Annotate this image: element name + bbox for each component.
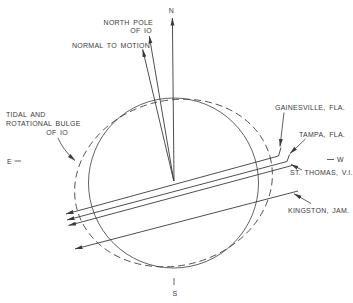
bulge-label-line2: ROTATIONAL BULGE	[6, 120, 81, 127]
io-occultation-diagram: N S E W NORTH POLE OF IO NORMAL TO MOTIO…	[0, 0, 353, 303]
station-label-tampa: TAMPA, FLA.	[299, 131, 345, 138]
station-label-kingston: KINGSTON, JAM.	[288, 207, 349, 214]
bulge-label-line1: TIDAL AND	[6, 111, 46, 118]
normal-to-motion-line	[143, 50, 174, 182]
compass-east-label: E	[7, 158, 12, 165]
compass-west-label: W	[337, 156, 344, 163]
bulge-leader-arrow	[58, 138, 75, 161]
bulge-label-line3: OF IO	[46, 129, 68, 136]
occultation-path-st-thomas	[69, 166, 293, 226]
station-label-gainesville: GAINESVILLE, FLA.	[275, 104, 345, 111]
kingston-leader-arrow	[294, 194, 311, 204]
compass-south-label: S	[173, 290, 178, 297]
tampa-leader-arrow	[290, 139, 306, 154]
occultation-path-kingston	[75, 191, 298, 249]
diagram-canvas: N S E W NORTH POLE OF IO NORMAL TO MOTIO…	[0, 0, 353, 303]
gainesville-leader-arrow	[280, 113, 284, 147]
normal-to-motion-label: NORMAL TO MOTION	[72, 42, 150, 49]
north-pole-axis-line	[149, 36, 174, 181]
station-label-st-thomas: ST. THOMAS, V.I.	[290, 169, 353, 176]
north-pole-label-line1: NORTH POLE	[104, 19, 153, 26]
compass-north-label: N	[169, 7, 174, 14]
north-pole-label-line2: OF IO	[130, 27, 152, 34]
